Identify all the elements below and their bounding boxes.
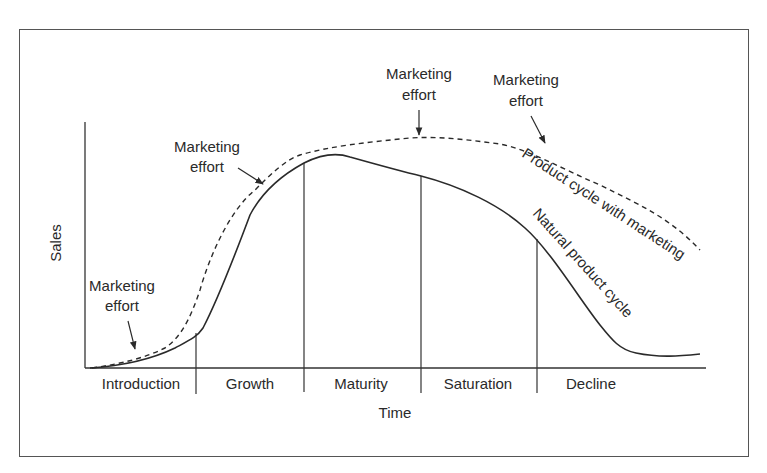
x-axis-label: Time xyxy=(379,404,412,421)
curve-label-marketing: Product cycle with marketing xyxy=(519,144,688,262)
svg-text:effort: effort xyxy=(190,158,225,175)
arrow-icon xyxy=(128,321,135,349)
y-axis-label: Sales xyxy=(47,224,64,262)
marketing-product-cycle-curve xyxy=(92,137,700,368)
natural-product-cycle-curve xyxy=(90,155,700,368)
annotation-maturity: Marketing effort xyxy=(386,65,452,135)
svg-text:Marketing: Marketing xyxy=(174,138,240,155)
annotation-growth: Marketing effort xyxy=(174,138,263,184)
svg-text:effort: effort xyxy=(509,92,544,109)
arrow-icon xyxy=(238,168,263,184)
stage-label-introduction: Introduction xyxy=(102,375,180,392)
annotation-saturation: Marketing effort xyxy=(493,71,559,143)
svg-text:Marketing: Marketing xyxy=(493,71,559,88)
svg-text:effort: effort xyxy=(402,86,437,103)
stage-label-growth: Growth xyxy=(226,375,274,392)
svg-text:Marketing: Marketing xyxy=(89,277,155,294)
stage-label-maturity: Maturity xyxy=(334,375,388,392)
arrow-icon xyxy=(531,116,545,143)
product-life-cycle-chart: Marketing effort Marketing effort Market… xyxy=(0,0,767,473)
stage-label-decline: Decline xyxy=(566,375,616,392)
stage-label-saturation: Saturation xyxy=(444,375,512,392)
svg-text:Marketing: Marketing xyxy=(386,65,452,82)
annotation-introduction: Marketing effort xyxy=(89,277,155,349)
svg-text:effort: effort xyxy=(105,297,140,314)
